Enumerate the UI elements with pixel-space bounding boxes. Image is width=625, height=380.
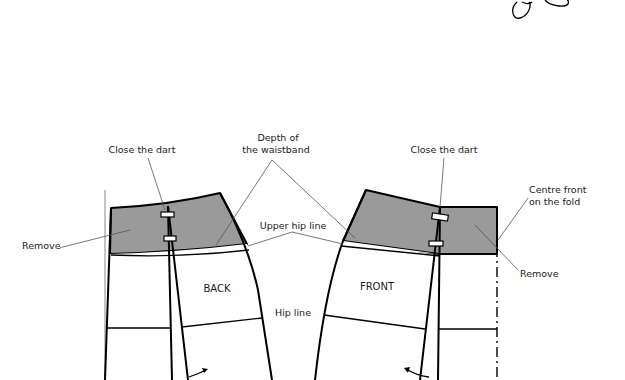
front-piece: FRONT xyxy=(315,190,497,380)
back-notch-upper xyxy=(161,212,174,217)
back-label: BACK xyxy=(203,283,231,294)
remove-back-label: Remove xyxy=(22,240,61,251)
back-piece: BACK xyxy=(105,190,272,380)
close-dart-front-label: Close the dart xyxy=(411,144,478,155)
back-waistband-shaded xyxy=(110,193,247,254)
hip-line-label: Hip line xyxy=(275,307,311,318)
depth-waistband-label-line2: the waistband xyxy=(242,144,309,155)
close-dart-back-label: Close the dart xyxy=(109,144,176,155)
scissors-loop-icon xyxy=(513,0,569,18)
depth-waistband-label-line1: Depth of xyxy=(257,132,299,143)
centre-front-label-line2: on the fold xyxy=(529,196,580,207)
upper-hip-line-label: Upper hip line xyxy=(260,220,327,231)
pattern-diagram: BACK FRONT xyxy=(0,0,625,380)
back-arrow-icon xyxy=(202,368,208,373)
back-notch-lower xyxy=(164,236,176,241)
front-label: FRONT xyxy=(360,281,395,292)
front-notch-lower xyxy=(429,241,443,246)
remove-front-label: Remove xyxy=(520,268,559,279)
centre-front-label-line1: Centre front xyxy=(529,184,587,195)
